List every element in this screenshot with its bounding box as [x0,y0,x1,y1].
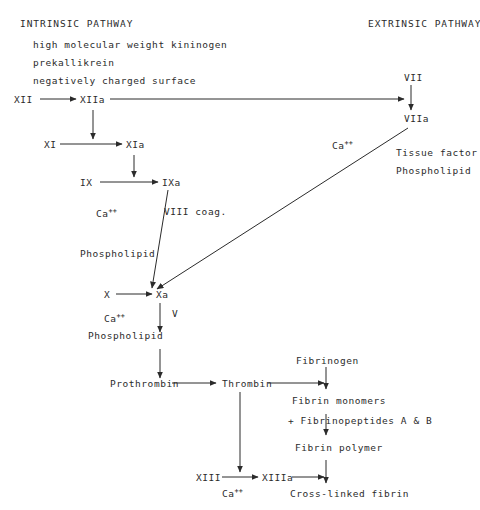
node-fibrinopeptides: + Fibrinopeptides A & B [288,415,432,426]
node-xiiia: XIIIa [262,472,293,483]
cofactor-tissue-factor: Tissue factor [396,147,478,158]
node-vii: VII [404,72,423,83]
arrow-ixa-to-xa [152,190,168,288]
node-xiii: XIII [196,472,221,483]
heading-intrinsic-pathway: INTRINSIC PATHWAY [20,18,133,29]
cofactor-calcium-xiii: Ca++ [222,486,243,499]
node-crosslinked-fibrin: Cross-linked fibrin [290,488,409,499]
node-xi: XI [44,139,57,150]
node-ixa: IXa [162,177,181,188]
cofactor-prekallikrein: prekallikrein [33,57,115,68]
node-ix: IX [80,177,93,188]
calcium-base: Ca [96,208,109,219]
node-fibrin-polymer: Fibrin polymer [295,442,383,453]
node-prothrombin: Prothrombin [110,378,179,389]
calcium-base: Ca [222,488,235,499]
cofactor-charged-surface: negatively charged surface [33,75,196,86]
cofactor-phospholipid-extrinsic: Phospholipid [396,165,471,176]
calcium-base: Ca [332,140,345,151]
calcium-base: Ca [104,313,117,324]
node-xa: Xa [156,289,169,300]
coagulation-cascade-diagram: INTRINSIC PATHWAY EXTRINSIC PATHWAY high… [0,0,480,510]
cofactor-phospholipid-tenase: Phospholipid [80,248,155,259]
cofactor-calcium-prothrombinase: Ca++ [104,311,125,324]
node-viia: VIIa [404,113,429,124]
node-xiia: XIIa [80,94,105,105]
calcium-superscript: ++ [345,139,354,147]
cofactor-calcium-tenase: Ca++ [96,206,117,219]
heading-extrinsic-pathway: EXTRINSIC PATHWAY [368,18,480,29]
node-thrombin: Thrombin [222,378,272,389]
node-fibrin-monomers: Fibrin monomers [292,395,386,406]
cofactor-viii-coag: VIII coag. [164,206,227,217]
node-xii: XII [14,94,33,105]
cofactor-calcium-extrinsic: Ca++ [332,138,353,151]
cofactor-phospholipid-prothrombinase: Phospholipid [88,330,163,341]
node-fibrinogen: Fibrinogen [296,355,359,366]
cofactor-factor-v: V [172,308,178,319]
calcium-superscript: ++ [117,312,126,320]
node-xia: XIa [126,139,145,150]
calcium-superscript: ++ [109,207,118,215]
cofactor-kininogen: high molecular weight kininogen [33,39,227,50]
calcium-superscript: ++ [235,487,244,495]
node-x: X [104,289,110,300]
